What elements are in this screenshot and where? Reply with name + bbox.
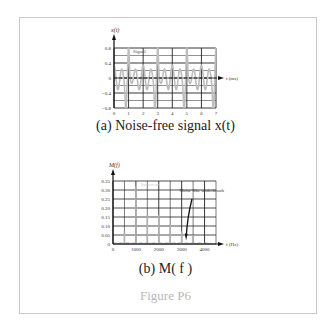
svg-text:7: 7 [215, 111, 218, 116]
caption-a: (a) Noise-free signal x(t) [0, 118, 331, 134]
svg-text:−0.8: −0.8 [102, 106, 112, 111]
svg-text:4000: 4000 [200, 247, 211, 252]
annotation-arrow [186, 199, 192, 237]
svg-text:6: 6 [200, 111, 203, 116]
caption-b: (b) M( f ) [0, 261, 331, 277]
figure-label: Figure P6 [0, 288, 331, 304]
svg-text:x(t): x(t) [110, 27, 119, 34]
svg-text:0.25: 0.25 [101, 197, 110, 202]
x-axis-arrow-icon [218, 76, 224, 80]
svg-text:0.8: 0.8 [105, 46, 112, 51]
annotation-arrowhead-icon [185, 233, 188, 240]
svg-text:2000: 2000 [154, 247, 165, 252]
svg-text:0.05: 0.05 [101, 233, 110, 238]
svg-text:f (Hz): f (Hz) [226, 242, 238, 247]
svg-text:Spectrum: Spectrum [140, 182, 159, 187]
svg-text:0.30: 0.30 [101, 188, 110, 193]
svg-text:0: 0 [112, 247, 115, 252]
y-axis-arrow-icon [111, 169, 115, 175]
svg-text:4: 4 [171, 111, 174, 116]
svg-text:0.4: 0.4 [105, 61, 112, 66]
annotation-text: Noise-like underbrush [179, 188, 224, 193]
svg-text:0: 0 [108, 242, 111, 247]
x-axis-arrow-icon [218, 242, 224, 246]
svg-text:1000: 1000 [131, 247, 142, 252]
svg-text:3000: 3000 [177, 247, 188, 252]
svg-text:1: 1 [127, 111, 130, 116]
svg-text:Signal: Signal [133, 49, 146, 54]
svg-text:0.10: 0.10 [101, 224, 110, 229]
svg-text:−0.4: −0.4 [102, 91, 112, 96]
svg-text:0: 0 [113, 111, 116, 116]
svg-text:t (ms): t (ms) [226, 76, 238, 81]
svg-text:2: 2 [142, 111, 145, 116]
signal-chart: t (ms)x(t)0.80.40−0.4−0.801234567Signalf… [0, 0, 331, 329]
svg-text:3: 3 [156, 111, 159, 116]
svg-text:0.20: 0.20 [101, 206, 110, 211]
svg-text:M(f): M(f) [108, 162, 120, 169]
svg-text:5: 5 [186, 111, 189, 116]
y-axis-arrow-icon [112, 34, 116, 40]
svg-text:0: 0 [109, 76, 112, 81]
svg-text:0.35: 0.35 [101, 179, 110, 184]
svg-text:0.15: 0.15 [101, 215, 110, 220]
